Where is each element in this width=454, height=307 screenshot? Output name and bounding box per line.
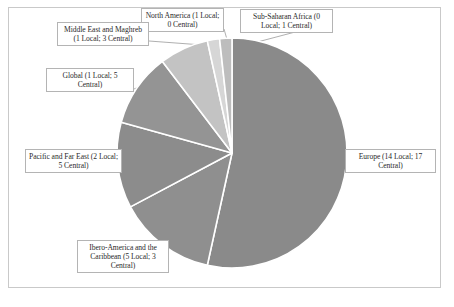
callout-label-ibero-america-and-the-caribbean: Ibero-America and the Caribbean (5 Local…	[81, 243, 166, 271]
callout-label-europe: Europe (14 Local; 17 Central)	[349, 152, 433, 171]
pie-slices-group	[117, 38, 347, 268]
callout-global: Global (1 Local; 5 Central)	[46, 68, 134, 92]
callout-label-global: Global (1 Local; 5 Central)	[50, 71, 131, 90]
callout-sub-saharan-africa: Sub-Saharan Africa (0 Local; 1 Central)	[240, 9, 333, 33]
callout-label-middle-east-and-maghreb: Middle East and Maghreb (1 Local; 3 Cent…	[61, 25, 146, 44]
callout-ibero-america-and-the-caribbean: Ibero-America and the Caribbean (5 Local…	[77, 240, 169, 273]
callout-pacific-and-far-east: Pacific and Far East (2 Local; 5 Central…	[25, 149, 122, 173]
callout-label-sub-saharan-africa: Sub-Saharan Africa (0 Local; 1 Central)	[244, 12, 330, 31]
pie-chart-page: Sub-Saharan Africa (0 Local; 1 Central) …	[0, 0, 454, 307]
callout-label-pacific-and-far-east: Pacific and Far East (2 Local; 5 Central…	[29, 152, 119, 171]
callout-label-north-america: North America (1 Local; 0 Central)	[145, 11, 221, 30]
callout-north-america: North America (1 Local; 0 Central)	[141, 8, 224, 32]
callout-middle-east-and-maghreb: Middle East and Maghreb (1 Local; 3 Cent…	[57, 22, 149, 46]
callout-europe: Europe (14 Local; 17 Central)	[345, 149, 436, 173]
